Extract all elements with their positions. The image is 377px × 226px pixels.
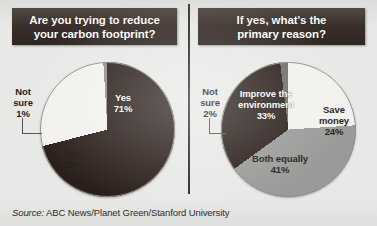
pie-slice-label-yes: Yes 71%	[95, 92, 151, 114]
pie-slice-value-save-money: 24%	[325, 126, 344, 137]
panel-divider	[188, 4, 190, 194]
leader-line-not-sure-left-horizontal	[22, 133, 42, 134]
infographic-root: Are you trying to reduce your carbon foo…	[0, 0, 377, 226]
pie-slice-label-no: No 28%	[50, 148, 98, 170]
pie-chart-reduce-footprint	[40, 62, 175, 197]
pie-slice-value-both-equally: 41%	[271, 164, 290, 175]
panel-title-right: If yes, what's the primary reason?	[233, 13, 331, 41]
pie-slice-label-both-equally: Both equally 41%	[242, 153, 318, 175]
leader-line-not-sure-right-vertical	[209, 118, 210, 134]
source-text: ABC News/Planet Green/Stanford Universit…	[46, 207, 229, 218]
panel-title-right-line1: If yes, what's the	[237, 14, 327, 26]
pie-slice-value-improve-environment: 33%	[257, 110, 276, 121]
pie-slice-label-save-money: Save money 24%	[310, 104, 358, 137]
source-label: Source:	[12, 207, 44, 218]
pie-slice-label-not-sure-right: Not sure 2%	[193, 86, 227, 119]
pie-slice-value-no: 28%	[65, 159, 84, 170]
pie-slice-value-not-sure-right: 2%	[203, 108, 217, 119]
pie-slice-value-not-sure-left: 1%	[16, 108, 30, 119]
panel-title-bar-left: Are you trying to reduce your carbon foo…	[12, 8, 177, 45]
pie-slice-label-not-sure-left: Not sure 1%	[6, 86, 40, 119]
pie-slice-name-not-sure-left-line1: Not	[15, 86, 31, 97]
pie-slice-label-improve-environment: Improve the environment 33%	[228, 88, 304, 121]
pie-slice-name-improve-environment-line1: Improve the	[240, 88, 293, 99]
leader-line-not-sure-right-horizontal	[209, 133, 226, 134]
source-credit: Source: ABC News/Planet Green/Stanford U…	[12, 207, 229, 218]
pie-slice-name-both-equally: Both equally	[252, 153, 308, 164]
panel-title-right-line2: primary reason?	[237, 28, 326, 40]
pie-slice-name-save-money-line2: money	[319, 115, 349, 126]
panel-title-left-line1: Are you trying to reduce	[29, 14, 160, 26]
panel-title-left-line2: your carbon footprint?	[34, 28, 156, 40]
pie-slice-name-yes: Yes	[115, 92, 131, 103]
leader-line-not-sure-left-vertical	[22, 118, 23, 134]
pie-slice-name-not-sure-left-line2: sure	[13, 97, 33, 108]
pie-slice-name-save-money-line1: Save	[323, 104, 345, 115]
pie-slice-name-not-sure-right-line1: Not	[202, 86, 218, 97]
pie-slice-name-no: No	[68, 148, 80, 159]
pie-slice-value-yes: 71%	[114, 103, 133, 114]
pie-slice-name-not-sure-right-line2: sure	[200, 97, 220, 108]
panel-title-bar-right: If yes, what's the primary reason?	[198, 8, 365, 45]
pie-slice-name-improve-environment-line2: environment	[238, 99, 294, 110]
panel-title-left: Are you trying to reduce your carbon foo…	[25, 13, 164, 41]
